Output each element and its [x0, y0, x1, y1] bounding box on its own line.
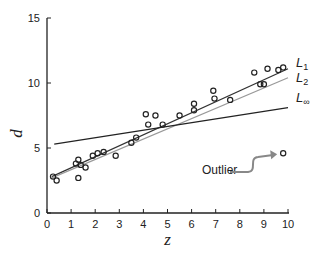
data-point: [83, 165, 88, 170]
data-point: [281, 65, 286, 70]
data-point: [143, 112, 148, 117]
data-point: [252, 70, 257, 75]
y-tick-label: 15: [28, 12, 40, 24]
x-tick-label: 10: [282, 218, 294, 230]
x-tick-label: 5: [164, 218, 170, 230]
x-tick-label: 3: [116, 218, 122, 230]
x-tick-label: 7: [213, 218, 219, 230]
outlier-annotation-label: Outlier: [202, 163, 237, 177]
x-tick-label: 2: [92, 218, 98, 230]
y-tick-label: 0: [34, 207, 40, 219]
outlier-point: [281, 151, 286, 156]
x-tick-label: 6: [189, 218, 195, 230]
axes: 012345678910 051015 z d: [7, 12, 294, 249]
data-point: [76, 175, 81, 180]
data-point: [212, 96, 217, 101]
outlier-arrowhead-icon: [270, 150, 277, 159]
x-tick-label: 0: [44, 218, 50, 230]
y-tick-label: 5: [34, 142, 40, 154]
x-tick-label: 9: [261, 218, 267, 230]
x-axis-label: z: [163, 230, 171, 249]
x-tick-label: 1: [68, 218, 74, 230]
data-point: [191, 101, 196, 106]
data-point: [95, 151, 100, 156]
x-tick-label: 8: [237, 218, 243, 230]
line-label-l2: L2: [296, 70, 308, 87]
x-tick-label: 4: [140, 218, 146, 230]
data-point: [177, 113, 182, 118]
data-point: [261, 82, 266, 87]
data-point: [265, 66, 270, 71]
x-ticks: 012345678910: [44, 209, 294, 230]
annotations: Outlier: [202, 150, 277, 177]
data-point: [113, 153, 118, 158]
data-point: [211, 88, 216, 93]
line-l-infinity: [54, 108, 288, 144]
fit-lines: L1L2L∞: [52, 55, 310, 178]
data-point: [146, 122, 151, 127]
scatter-chart: 012345678910 051015 z d L1L2L∞ Outlier: [0, 0, 311, 253]
line-label-l-infinity: L∞: [296, 90, 310, 107]
y-tick-label: 10: [28, 77, 40, 89]
data-point: [54, 178, 59, 183]
y-axis-label: d: [7, 129, 26, 138]
data-point: [153, 113, 158, 118]
